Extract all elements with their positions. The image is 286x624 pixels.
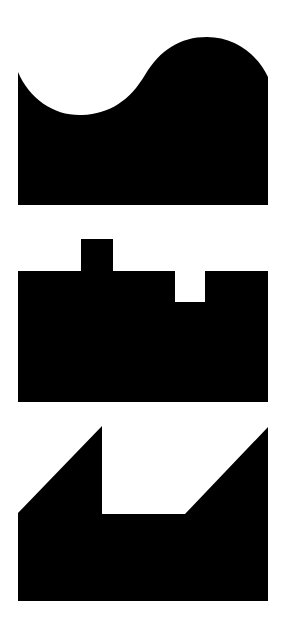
notched-block-shape — [18, 239, 268, 402]
shapes-canvas — [0, 0, 286, 624]
wave-block-shape — [18, 37, 268, 205]
angled-block-shape — [18, 426, 268, 601]
